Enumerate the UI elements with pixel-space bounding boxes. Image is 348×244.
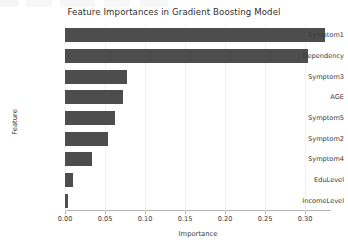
chart-title: Feature Importances in Gradient Boosting…	[0, 7, 348, 17]
y-tick-label: Dependency	[284, 52, 344, 60]
x-tick-mark	[185, 211, 186, 214]
x-tick-mark	[225, 211, 226, 214]
bar-row	[65, 87, 123, 108]
bar-row	[65, 66, 127, 87]
x-tick-mark	[105, 211, 106, 214]
x-tick-mark	[65, 211, 66, 214]
bar	[65, 194, 68, 208]
x-tick-label: 0.15	[178, 215, 193, 223]
x-tick-label: 0.20	[218, 215, 233, 223]
bar	[65, 90, 123, 104]
x-tick-label: 0.10	[138, 215, 153, 223]
y-axis-label: Feature	[11, 109, 19, 135]
bar-row	[65, 170, 73, 191]
x-tick-label: 0.00	[58, 215, 73, 223]
x-tick-mark	[305, 211, 306, 214]
x-tick-mark	[145, 211, 146, 214]
bar-row	[65, 149, 92, 170]
x-tick-mark	[265, 211, 266, 214]
x-axis-ticks: 0.000.050.100.150.200.250.30	[65, 211, 331, 227]
y-tick-label: EduLevel	[284, 176, 344, 184]
y-tick-label: Symptom5	[284, 114, 344, 122]
bar-row	[65, 108, 115, 129]
x-tick-label: 0.30	[298, 215, 313, 223]
chart-figure: Feature Importances in Gradient Boosting…	[0, 0, 348, 244]
x-tick-label: 0.25	[258, 215, 273, 223]
y-tick-label: Symptom1	[284, 31, 344, 39]
bar-row	[65, 46, 308, 67]
bar	[65, 173, 73, 187]
bar	[65, 132, 108, 146]
y-tick-label: AGE	[284, 93, 344, 101]
y-tick-label: Symptom3	[284, 73, 344, 81]
y-tick-label: Symptom2	[284, 135, 344, 143]
bar	[65, 49, 308, 63]
y-tick-label: IncomeLevel	[284, 197, 344, 205]
bar	[65, 70, 127, 84]
x-axis-label: Importance	[65, 230, 331, 238]
clipped-top-strip	[0, 0, 348, 7]
bar	[65, 111, 115, 125]
y-tick-label: Symptom4	[284, 155, 344, 163]
bar-row	[65, 190, 68, 211]
bar-row	[65, 128, 108, 149]
x-tick-label: 0.05	[98, 215, 113, 223]
bar	[65, 152, 92, 166]
